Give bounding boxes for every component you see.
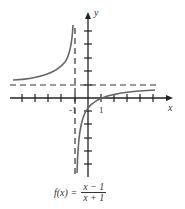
tick-label-pos1: 1 [99,105,104,115]
curve-right-branch [77,90,155,173]
formula-lhs: f(x) = [54,187,77,198]
x-axis-arrow-icon [166,95,173,101]
formula-denominator: x + 1 [81,193,106,203]
tick-label-neg1: -1 [69,105,77,115]
formula-fraction: x − 1 x + 1 [81,182,106,203]
curve-left-branch [13,25,73,80]
x-axis-label: x [167,102,173,113]
function-formula: f(x) = x − 1 x + 1 [54,182,106,203]
y-axis-arrow-icon [85,12,91,19]
graph: y x -1 1 [0,0,185,209]
y-axis-label: y [93,7,99,18]
